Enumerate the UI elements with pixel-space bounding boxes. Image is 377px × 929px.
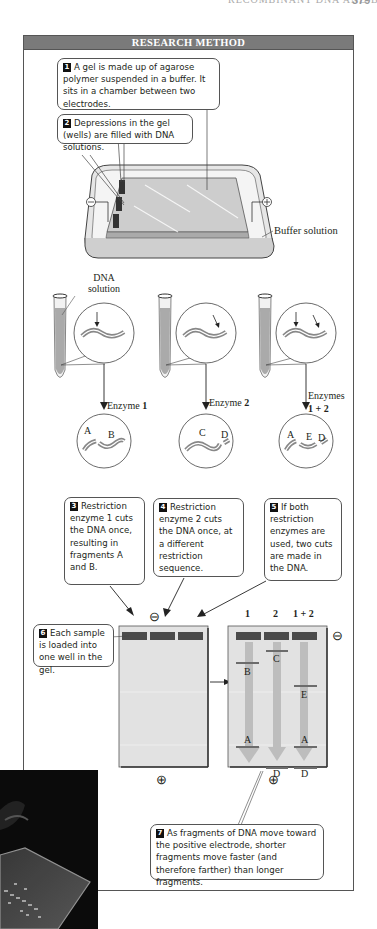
callout-step-1: 1A gel is made up of agarose polymer sus…	[57, 58, 220, 110]
fragment-label-e: E	[306, 431, 312, 442]
step7-leader	[241, 771, 263, 825]
step-text: If both restriction enzymes are used, tw…	[270, 502, 333, 573]
step-number-badge: 2	[63, 119, 71, 128]
fragment-label-a: A	[84, 425, 91, 436]
band-label-a: A	[301, 734, 308, 745]
result-circle-1	[77, 414, 131, 468]
callout-step-5: 5If both restriction enzymes are used, t…	[264, 498, 342, 581]
enzyme-1-label: Enzyme 1	[107, 400, 147, 411]
result-circle-2	[179, 414, 233, 468]
step-number-badge: 7	[156, 829, 164, 838]
lane-header-12: 1 + 2	[293, 608, 314, 619]
step-number-badge: 4	[159, 503, 167, 512]
lane-header-1: 1	[245, 608, 250, 619]
band-label-b: B	[244, 666, 251, 677]
step-number-badge: 1	[63, 63, 71, 72]
step-text: Restriction enzyme 1 cuts the DNA once, …	[70, 501, 133, 572]
step-number-badge: 6	[39, 629, 47, 638]
callout-step-3: 3Restriction enzyme 1 cuts the DNA once,…	[64, 497, 145, 585]
callout-step-4: 4Restriction enzyme 2 cuts the DNA once,…	[153, 498, 244, 577]
band-label-a: A	[244, 734, 251, 745]
band-label-d: D	[301, 768, 308, 779]
step-number-badge: 3	[70, 502, 78, 511]
fragment-label-d: D	[221, 429, 228, 440]
step-text: Restriction enzyme 2 cuts the DNA once, …	[159, 502, 232, 573]
dna-solution-label: DNA solution	[84, 272, 124, 294]
lane-header-2: 2	[273, 608, 278, 619]
gel-before	[119, 626, 208, 767]
fragment-label-c: C	[199, 427, 206, 438]
gel-photo	[0, 770, 98, 929]
enzyme-12-label: Enzymes1 + 2	[308, 389, 345, 415]
magnifier-2	[166, 303, 236, 365]
band-label-c: C	[273, 653, 280, 664]
negative-electrode-icon: ⊖	[149, 609, 160, 625]
magnifier-1	[61, 303, 134, 365]
step-number-badge: 5	[270, 503, 278, 512]
callout-step-2: 2Depressions in the gel (wells) are fill…	[57, 114, 193, 144]
band-label-e: E	[301, 689, 307, 700]
callout-step-6: 6Each sample is loaded into one well in …	[33, 624, 114, 667]
step-text: As fragments of DNA move toward the posi…	[156, 828, 316, 887]
fragment-label-b: B	[108, 429, 115, 440]
positive-electrode-icon: ⊕	[156, 772, 167, 788]
step-text: A gel is made up of agarose polymer susp…	[63, 62, 205, 109]
band-label-d: D	[273, 768, 280, 779]
fragment-label-a: A	[287, 429, 294, 440]
magnifier-3	[266, 303, 336, 365]
buffer-solution-label: Buffer solution	[274, 225, 338, 236]
gel-after	[228, 626, 327, 768]
fragment-label-d: D	[318, 432, 325, 443]
gel-photo-graphic	[0, 770, 98, 929]
enzyme-2-label: Enzyme 2	[209, 397, 249, 408]
callout-step-7: 7As fragments of DNA move toward the pos…	[150, 824, 324, 880]
negative-electrode-icon: ⊖	[332, 628, 343, 644]
